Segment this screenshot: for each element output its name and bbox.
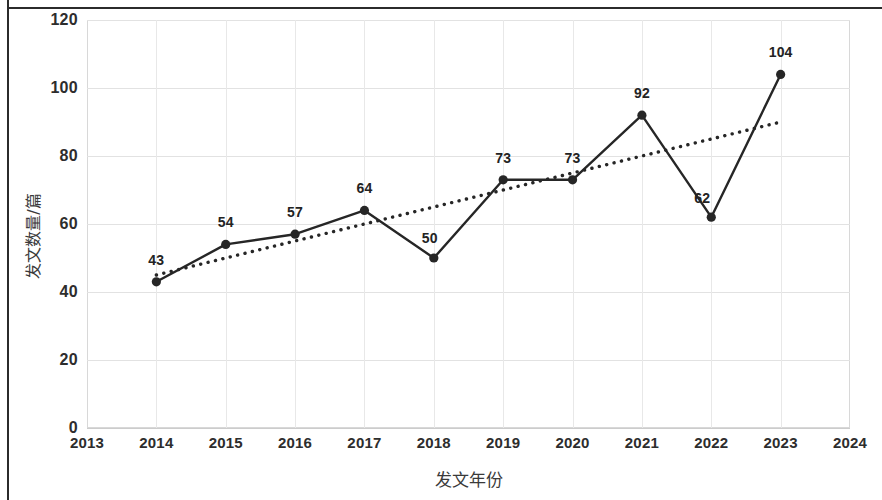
data-point-marker[interactable]: [568, 175, 577, 184]
x-axis-tick-labels: 2013201420152016201720182019202020212022…: [87, 434, 850, 458]
x-tick-label-2024: 2024: [810, 434, 882, 451]
y-tick-label-120: 120: [8, 11, 78, 29]
data-label-2023: 104: [769, 44, 793, 60]
x-tick-label-2015: 2015: [186, 434, 266, 451]
gridline-y-0: [87, 428, 850, 429]
data-point-marker[interactable]: [221, 240, 230, 249]
data-label-2014: 43: [148, 252, 164, 268]
x-tick-label-2019: 2019: [463, 434, 543, 451]
chart-figure: 435457645073739262104 020406080100120 20…: [0, 0, 882, 500]
x-tick-label-2018: 2018: [394, 434, 474, 451]
data-point-marker[interactable]: [429, 253, 438, 262]
data-label-2016: 57: [287, 204, 303, 220]
data-point-marker[interactable]: [290, 230, 299, 239]
data-label-2015: 54: [218, 214, 234, 230]
data-line: [156, 74, 780, 281]
trendline: [156, 122, 780, 275]
y-tick-label-100: 100: [8, 79, 78, 97]
data-label-2020: 73: [565, 150, 581, 166]
figure-frame-top-border: [7, 7, 882, 9]
x-tick-label-2013: 2013: [47, 434, 127, 451]
x-tick-label-2020: 2020: [533, 434, 613, 451]
x-tick-label-2014: 2014: [116, 434, 196, 451]
y-axis-title: 发文数量/篇: [20, 166, 44, 306]
data-series-layer: [87, 20, 850, 428]
data-label-2019: 73: [495, 150, 511, 166]
x-tick-label-2016: 2016: [255, 434, 335, 451]
y-tick-label-20: 20: [8, 351, 78, 369]
x-tick-label-2021: 2021: [602, 434, 682, 451]
y-tick-label-80: 80: [8, 147, 78, 165]
data-point-marker[interactable]: [152, 277, 161, 286]
data-point-marker[interactable]: [707, 213, 716, 222]
x-tick-label-2022: 2022: [671, 434, 751, 451]
plot-area: 435457645073739262104: [87, 20, 850, 428]
data-point-marker[interactable]: [360, 206, 369, 215]
x-axis-title: 发文年份: [87, 466, 850, 491]
x-tick-label-2017: 2017: [324, 434, 404, 451]
data-point-marker[interactable]: [776, 70, 785, 79]
data-label-2022: 62: [694, 190, 710, 206]
data-label-2021: 92: [634, 85, 650, 101]
data-point-marker[interactable]: [499, 175, 508, 184]
data-label-2017: 64: [356, 180, 372, 196]
data-label-2018: 50: [422, 230, 438, 246]
x-tick-label-2023: 2023: [741, 434, 821, 451]
data-point-marker[interactable]: [637, 111, 646, 120]
